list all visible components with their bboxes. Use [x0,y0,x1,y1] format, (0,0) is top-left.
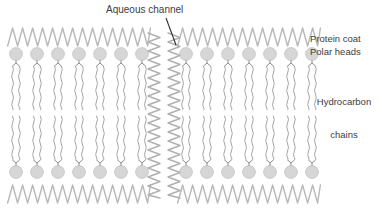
polar-head [115,166,128,179]
lipid-stem [55,160,62,166]
hydrocarbon-chain [124,66,126,110]
lipid-stem [34,160,41,166]
protein-coat-line-bottom [8,185,151,203]
hydrocarbon-chain [12,66,14,110]
lipid-stem [183,160,190,166]
hydrocarbon-chain [145,116,147,160]
hydrocarbon-chain [12,116,14,160]
hydrocarbon-chain [40,66,42,110]
polar-head [306,166,319,179]
polar-head [52,166,65,179]
hydrocarbon-chain [273,116,275,160]
hydrocarbon-chain [61,116,63,160]
hydrocarbon-chain [103,66,105,110]
polar-head [222,48,235,61]
polar-head [285,48,298,61]
lipid-stem [309,160,316,166]
hydrocarbon-chains-label-line2: chains [306,129,382,140]
hydrocarbon-chain [33,116,35,160]
lipid-stem [288,160,295,166]
polar-head [31,166,44,179]
lipid-stem [97,160,104,166]
lipid-stem [204,160,211,166]
lipid-stem [76,160,83,166]
polar-head [285,166,298,179]
hydrocarbon-chain [124,116,126,160]
hydrocarbon-chain [54,116,56,160]
hydrocarbon-chain [245,66,247,110]
polar-head [243,48,256,61]
hydrocarbon-chain [266,116,268,160]
hydrocarbon-chain [182,66,184,110]
polar-head [10,48,23,61]
polar-head [94,48,107,61]
polar-head [115,48,128,61]
hydrocarbon-chain [145,66,147,110]
hydrocarbon-chain [96,66,98,110]
aqueous-channel [148,33,180,198]
hydrocarbon-chain [224,66,226,110]
lipid-stem [288,60,295,66]
polar-head [52,48,65,61]
hydrocarbon-chain [266,66,268,110]
hydrocarbon-chain [103,116,105,160]
lipid-stem [13,60,20,66]
hydrocarbon-chain [231,66,233,110]
hydrocarbon-chain [96,116,98,160]
lipid-stem [118,60,125,66]
polar-head [73,48,86,61]
hydrocarbon-chain [117,116,119,160]
hydrocarbon-chain [138,116,140,160]
lipid-stem [13,160,20,166]
lipid-stem [139,60,146,66]
hydrocarbon-chain [252,116,254,160]
hydrocarbon-chain [210,66,212,110]
hydrocarbon-chain [294,66,296,110]
channel-wall-right [168,33,180,198]
hydrocarbon-chains-label-line1: Hydrocarbon [306,96,382,107]
hydrocarbon-chain [245,116,247,160]
lipid-stem [118,160,125,166]
polar-heads-label: Polar heads [310,46,361,57]
polar-head [136,48,149,61]
lipid-stem [246,160,253,166]
hydrocarbon-chain [19,116,21,160]
lipid-stem [204,60,211,66]
lipid-stem [183,60,190,66]
lipid-stem [225,60,232,66]
hydrocarbon-chain [189,66,191,110]
hydrocarbon-chain [287,66,289,110]
hydrocarbon-chain [203,116,205,160]
lipid-stem [97,60,104,66]
polar-head [180,48,193,61]
hydrocarbon-chains-label: Hydrocarbon chains [306,74,382,151]
lipid-stem [34,60,41,66]
polar-head [94,166,107,179]
lipid-stem [225,160,232,166]
hydrocarbon-chain [210,116,212,160]
lipid-stem [139,160,146,166]
lipid-stem [309,60,316,66]
polar-head [31,48,44,61]
polar-head [180,166,193,179]
lipid-stem [246,60,253,66]
polar-head [201,166,214,179]
hydrocarbon-chain [182,116,184,160]
protein-coat-line-top [8,28,151,46]
lipid-stem [55,60,62,66]
channel-wall-left [148,33,160,198]
lipid-stem [267,160,274,166]
hydrocarbon-chain [82,116,84,160]
left-bilayer [8,28,151,203]
polar-head [264,48,277,61]
polar-head [201,48,214,61]
polar-head [136,166,149,179]
hydrocarbon-chain [203,66,205,110]
hydrocarbon-chain [287,116,289,160]
hydrocarbon-chain [61,66,63,110]
hydrocarbon-chain [75,66,77,110]
protein-coat-line-bottom [178,185,321,203]
aqueous-channel-label: Aqueous channel [106,4,183,15]
protein-coat-label: Protein coat [310,33,361,44]
hydrocarbon-chain [40,116,42,160]
